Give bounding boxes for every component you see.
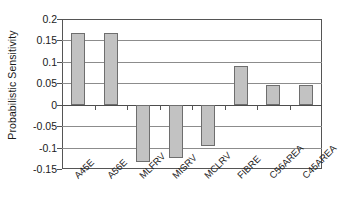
gridline <box>62 62 322 63</box>
x-tick-mark <box>160 105 161 110</box>
x-axis-labels: A45EA56EMLFRVMISRVMCLRVFIBREC56AREAC45AR… <box>62 173 322 223</box>
gridline <box>62 83 322 84</box>
x-tick-mark <box>192 105 193 110</box>
y-tick-label: 0 <box>15 99 57 111</box>
y-tick-mark <box>57 83 62 84</box>
gridline <box>62 126 322 127</box>
x-tick-mark <box>127 105 128 110</box>
bar <box>104 33 118 105</box>
y-tick-label: 0.05 <box>15 77 57 89</box>
y-tick-mark <box>57 148 62 149</box>
plot-frame <box>62 19 322 169</box>
x-tick-mark <box>257 105 258 110</box>
bar <box>169 105 183 159</box>
bar <box>266 85 280 104</box>
y-tick-mark <box>57 126 62 127</box>
plot-area: 0.20.150.10.050-0.05-0.1-0.15 <box>62 19 322 169</box>
y-tick-mark <box>57 19 62 20</box>
gridline <box>62 40 322 41</box>
y-tick-label: 0.15 <box>15 34 57 46</box>
x-tick-mark <box>95 105 96 110</box>
bar-chart-figure: Probabilistic Sensitivity 0.20.150.10.05… <box>0 0 340 223</box>
bar <box>299 85 313 104</box>
y-tick-label: -0.05 <box>15 120 57 132</box>
bar <box>136 105 150 162</box>
y-tick-label: 0.1 <box>15 56 57 68</box>
gridline <box>62 148 322 149</box>
bar <box>234 66 248 105</box>
y-tick-mark <box>57 169 62 170</box>
y-tick-label: 0.2 <box>15 13 57 25</box>
x-tick-mark <box>290 105 291 110</box>
y-tick-mark <box>57 62 62 63</box>
y-tick-label: -0.15 <box>15 163 57 175</box>
x-tick-mark <box>225 105 226 110</box>
bar <box>201 105 215 147</box>
bar <box>71 33 85 105</box>
y-tick-label: -0.1 <box>15 142 57 154</box>
y-tick-mark <box>57 105 62 106</box>
y-tick-mark <box>57 40 62 41</box>
